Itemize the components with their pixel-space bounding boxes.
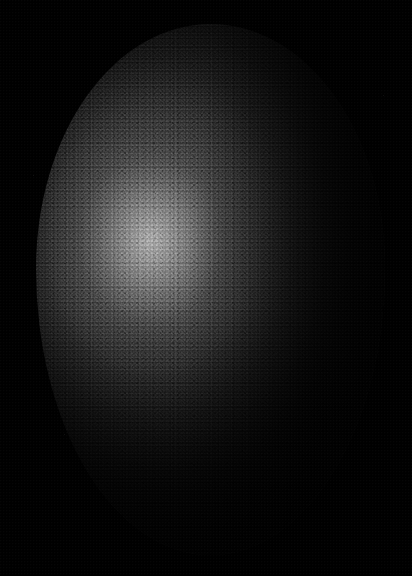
emu-egg: [36, 24, 385, 555]
backdrop-speck: [33, 175, 34, 176]
photograph: A dark, pebbled-textured emu egg lit fro…: [0, 0, 412, 576]
egg-edge-blend: [36, 24, 385, 555]
